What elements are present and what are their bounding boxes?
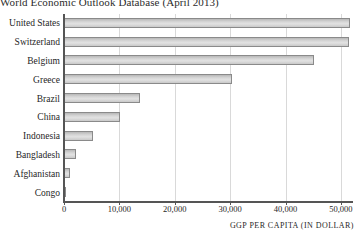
bar-row [64,108,352,125]
x-axis-tick-mark [64,202,65,205]
y-axis-tick-label: Indonesia [0,131,60,141]
bar-row [64,164,352,181]
y-axis-category-labels: United StatesSwitzerlandBelgiumGreeceBra… [0,14,60,202]
x-axis-tick-label: 40,000 [274,204,297,214]
y-axis-tick-label: Greece [0,75,60,85]
bar [64,18,350,28]
bar [64,37,349,47]
bar-row [64,127,352,144]
y-axis-tick-label: Switzerland [0,37,60,47]
x-axis-tick-label: 50,000 [329,204,352,214]
bar [64,74,232,84]
bar-row [64,52,352,69]
bar [64,93,140,103]
chart-title: World Economic Outlook Database (April 2… [0,0,280,8]
y-axis-line [63,14,65,203]
plot-area [64,14,352,202]
bar [64,55,314,65]
bar-row [64,146,352,163]
y-axis-tick-label: Congo [0,188,60,198]
y-axis-tick-label: Afghanistan [0,169,60,179]
x-axis-tick-mark [230,202,231,205]
bar-row [64,14,352,31]
bar-row [64,183,352,200]
x-axis-tick-label: 10,000 [108,204,131,214]
x-axis-tick-labels: 010,00020,00030,00040,00050,000 [64,204,354,216]
x-axis-line [63,201,353,203]
x-axis-tick-label: 30,000 [218,204,241,214]
bar [64,168,70,178]
x-axis-tick-mark [119,202,120,205]
x-axis-tick-label: 20,000 [163,204,186,214]
bar-row [64,70,352,87]
bar [64,131,93,141]
x-axis-tick-mark [341,202,342,205]
x-axis-tick-mark [286,202,287,205]
y-axis-tick-label: Belgium [0,56,60,66]
y-axis-tick-label: United States [0,18,60,28]
y-axis-tick-label: China [0,112,60,122]
bar [64,112,120,122]
y-axis-tick-label: Brazil [0,94,60,104]
x-axis-tick-mark [175,202,176,205]
chart-figure: World Economic Outlook Database (April 2… [0,0,358,236]
bar-row [64,89,352,106]
bar-row [64,33,352,50]
bar [64,149,76,159]
x-axis-tick-label: 0 [62,204,66,214]
y-axis-tick-label: Bangladesh [0,150,60,160]
x-axis-title: GGP PER CAPITA (IN DOLLAR) [230,221,354,230]
